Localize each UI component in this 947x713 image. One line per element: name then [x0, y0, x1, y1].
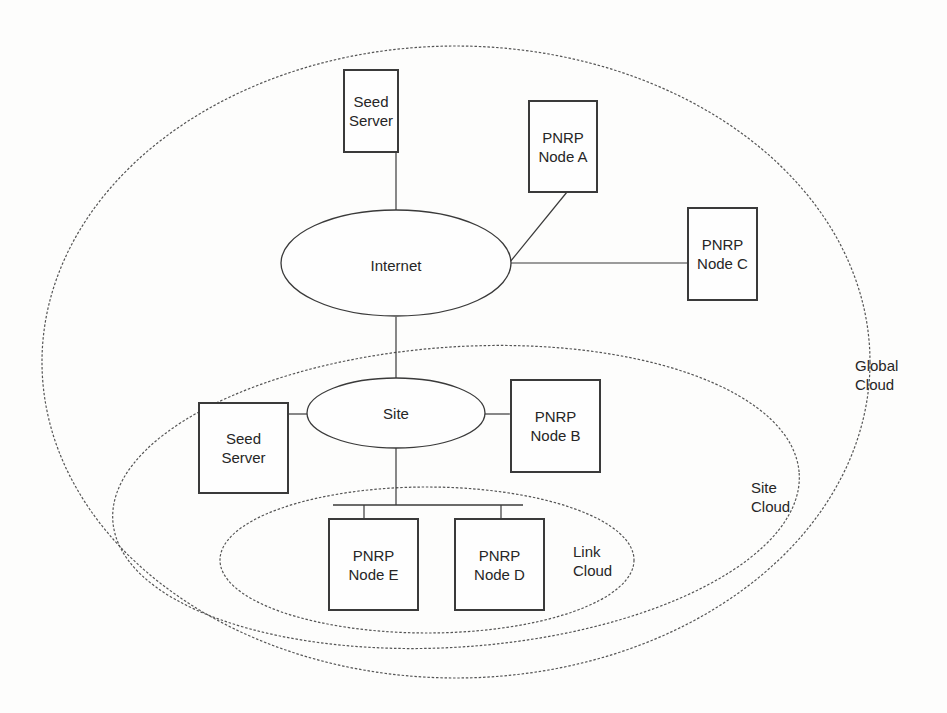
cloud-label-line1: Global: [855, 356, 898, 375]
cloud-label-line2: Cloud: [573, 561, 612, 580]
node-label-line2: Server: [221, 448, 265, 467]
site-label: Site: [383, 405, 409, 422]
link-cloud-label: Link Cloud: [573, 542, 612, 580]
site-cloud-label: Site Cloud: [751, 478, 790, 516]
cloud-label-line2: Cloud: [751, 497, 790, 516]
node-label-line1: PNRP: [479, 546, 521, 565]
node-label-line2: Server: [349, 111, 393, 130]
node-label-line2: Node E: [348, 565, 398, 584]
cloud-label-line1: Site: [751, 478, 790, 497]
pnrp-node-a: PNRP Node A: [528, 100, 598, 193]
link-cloud-boundary: [220, 487, 634, 633]
seed-server-global: Seed Server: [343, 69, 399, 153]
cloud-label-line1: Link: [573, 542, 612, 561]
cloud-label-line2: Cloud: [855, 375, 898, 394]
node-label-line2: Node C: [697, 254, 748, 273]
node-label-line2: Node D: [474, 565, 525, 584]
node-label-line2: Node B: [530, 426, 580, 445]
pnrp-node-b: PNRP Node B: [510, 379, 601, 473]
global-cloud-label: Global Cloud: [855, 356, 898, 394]
site-cloud-boundary: [102, 323, 809, 670]
seed-server-site: Seed Server: [198, 402, 289, 494]
node-label-line1: PNRP: [535, 407, 577, 426]
node-label-line1: PNRP: [542, 128, 584, 147]
pnrp-node-d: PNRP Node D: [454, 518, 545, 611]
node-label-line1: PNRP: [353, 546, 395, 565]
pnrp-cloud-diagram: Internet Site Seed Server PNRP Node A PN…: [0, 0, 947, 713]
node-label-line1: Seed: [353, 92, 388, 111]
node-label-line2: Node A: [538, 147, 587, 166]
internet-label: Internet: [371, 257, 422, 274]
node-label-line1: Seed: [226, 429, 261, 448]
pnrp-node-c: PNRP Node C: [687, 207, 758, 301]
node-label-line1: PNRP: [702, 235, 744, 254]
pnrp-node-e: PNRP Node E: [328, 518, 419, 611]
link-nodea-internet: [510, 192, 567, 262]
